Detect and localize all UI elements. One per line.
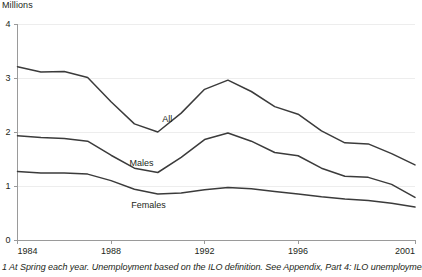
gridlines-group: [18, 24, 416, 186]
line-chart-plot: 01234 19841988199219962001 AllMalesFemal…: [0, 0, 422, 258]
x-tick-group: 19841988199219962001: [18, 240, 416, 256]
chart-figure: Millions 01234 19841988199219962001 AllM…: [0, 0, 422, 277]
series-label-all: All: [162, 114, 172, 124]
y-tick-label: 2: [5, 127, 10, 137]
series-line-all: [18, 67, 416, 165]
x-tick-label: 1984: [18, 246, 38, 256]
series-label-males: Males: [129, 158, 154, 168]
series-labels-group: AllMalesFemales: [129, 114, 172, 209]
chart-footnote: 1 At Spring each year. Unemployment base…: [2, 262, 420, 273]
y-tick-group: 01234: [5, 19, 17, 245]
x-tick-label: 1996: [288, 246, 308, 256]
y-tick-label: 4: [5, 19, 10, 29]
y-tick-label: 1: [5, 181, 10, 191]
y-tick-label: 0: [5, 235, 10, 245]
series-label-females: Females: [131, 200, 166, 210]
x-tick-label: 1992: [195, 246, 215, 256]
x-tick-label: 2001: [395, 246, 415, 256]
x-tick-label: 1988: [101, 246, 121, 256]
y-tick-label: 3: [5, 73, 10, 83]
